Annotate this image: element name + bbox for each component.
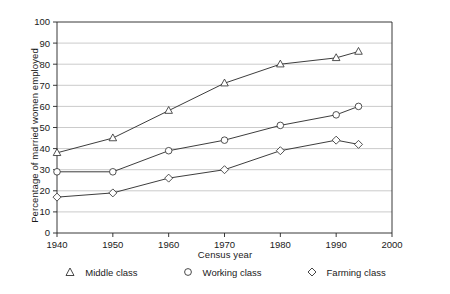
data-point-circle: [355, 103, 362, 110]
chart-legend: Middle class Working class Farming class: [0, 266, 450, 278]
legend-label-working-class: Working class: [203, 267, 262, 278]
y-tick-label: 10: [39, 206, 50, 217]
y-tick-label: 0: [45, 227, 50, 238]
x-tick-label: 1980: [270, 239, 291, 250]
data-point-circle: [110, 169, 117, 176]
y-tick-label: 90: [39, 38, 50, 49]
legend-item-working-class: Working class: [182, 266, 262, 278]
data-point-circle: [165, 147, 172, 154]
x-axis-title: Census year: [0, 249, 450, 260]
y-axis-title: Percentage of married women employed: [29, 26, 40, 246]
legend-item-middle-class: Middle class: [64, 266, 137, 278]
x-tick-label: 1940: [46, 239, 67, 250]
data-point-triangle: [109, 134, 117, 141]
y-tick-label: 70: [39, 80, 50, 91]
line-chart: 0102030405060708090100194019501960197019…: [0, 0, 450, 294]
data-point-diamond: [332, 136, 340, 144]
y-tick-label: 80: [39, 59, 50, 70]
y-tick-label: 20: [39, 185, 50, 196]
data-point-triangle: [355, 47, 363, 54]
x-tick-label: 1950: [102, 239, 123, 250]
data-point-diamond: [109, 189, 117, 197]
data-point-diamond: [355, 140, 363, 148]
series-middle-class: [53, 47, 362, 155]
y-tick-label: 30: [39, 164, 50, 175]
series-line: [57, 52, 359, 153]
data-point-circle: [221, 137, 228, 144]
legend-label-farming-class: Farming class: [327, 267, 386, 278]
series-working-class: [54, 103, 362, 175]
circle-marker-icon: [182, 266, 194, 278]
legend-item-farming-class: Farming class: [306, 266, 386, 278]
data-point-circle: [277, 122, 284, 129]
data-point-diamond: [165, 174, 173, 182]
data-point-triangle: [165, 107, 173, 114]
data-point-circle: [54, 169, 61, 176]
gridlines: [57, 22, 392, 212]
data-point-diamond: [53, 193, 61, 201]
data-point-circle: [333, 112, 340, 119]
x-tick-label: 1990: [326, 239, 347, 250]
diamond-marker-icon: [306, 266, 318, 278]
y-tick-label: 60: [39, 101, 50, 112]
y-tick-label: 50: [39, 122, 50, 133]
x-tick-label: 2000: [381, 239, 402, 250]
data-point-diamond: [276, 147, 284, 155]
x-tick-label: 1960: [158, 239, 179, 250]
x-tick-label: 1970: [214, 239, 235, 250]
y-tick-label: 40: [39, 143, 50, 154]
x-axis-ticks: 1940195019601970198019902000: [46, 233, 402, 250]
series-line: [57, 106, 359, 171]
data-point-diamond: [221, 166, 229, 174]
legend-label-middle-class: Middle class: [85, 267, 137, 278]
series-farming-class: [53, 136, 363, 201]
triangle-marker-icon: [64, 266, 76, 278]
